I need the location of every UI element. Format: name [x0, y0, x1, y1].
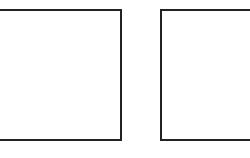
left-panel [0, 9, 122, 141]
right-panel [160, 9, 250, 141]
